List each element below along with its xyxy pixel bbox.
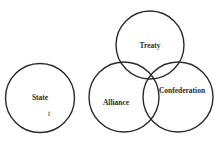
alliance-label: Alliance <box>103 98 130 107</box>
venn-diagram: State Treaty Alliance Confederation t <box>0 0 219 142</box>
confederation-label: Confederation <box>159 86 206 95</box>
treaty-label: Treaty <box>140 41 161 50</box>
alliance-circle <box>89 62 159 132</box>
confederation-circle <box>143 62 213 132</box>
t-annotation: t <box>48 109 51 118</box>
state-label: State <box>32 93 49 102</box>
